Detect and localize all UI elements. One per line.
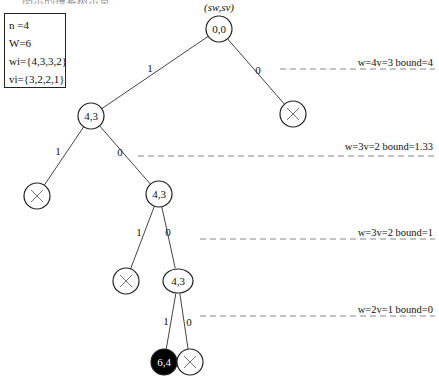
node-state-label: 4,3 [171, 275, 185, 287]
bound-label: w=3v=2 bound=1 [358, 227, 433, 238]
root-state-label: (sw,sv) [204, 1, 234, 14]
tree-edge [44, 127, 83, 185]
node-state-label: 4,3 [152, 188, 166, 200]
tree-node-normal: 4,3 [78, 103, 104, 129]
bound-label: w=4v=3 bound=4 [358, 57, 434, 68]
edge-decision-label: 1 [136, 226, 142, 238]
tree-node-solution: 6,4 [151, 349, 177, 375]
bound-label: w=3v=2 bound=1.33 [345, 141, 433, 152]
edge-decision-label: 0 [165, 226, 171, 238]
edge-decision-label: 0 [117, 146, 123, 158]
tree-node-pruned [177, 349, 203, 375]
edge-decision-label: 1 [147, 62, 153, 74]
tree-node-pruned [24, 183, 50, 209]
tree-edge [131, 206, 155, 269]
node-state-label: 0,0 [212, 23, 226, 35]
tree-node-normal: 0,0 [206, 16, 232, 42]
edge-decision-label: 1 [55, 145, 61, 157]
edge-decision-label: 0 [186, 316, 192, 328]
bound-label: w=2v=1 bound=0 [358, 304, 433, 315]
node-state-label: 6,4 [157, 356, 171, 368]
search-tree: w=4v=3 bound=4w=3v=2 bound=1.33w=3v=2 bo… [0, 0, 439, 383]
edge-decision-label: 1 [163, 315, 169, 327]
node-state-label: 4,3 [84, 110, 98, 122]
tree-edge [102, 36, 208, 108]
tree-edge [100, 126, 151, 184]
edge-decision-label: 0 [255, 64, 261, 76]
tree-node-normal: 4,3 [146, 181, 172, 207]
tree-node-pruned [113, 268, 139, 294]
tree-node-pruned [280, 101, 306, 127]
tree-node-ellipse: 4,3 [163, 269, 193, 293]
